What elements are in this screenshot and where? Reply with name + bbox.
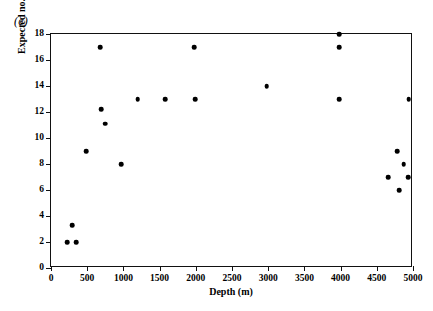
data-point [386,175,391,180]
data-point [395,149,400,154]
x-tick-label: 5000 [404,274,423,284]
data-point [84,149,89,154]
y-tick [46,34,51,35]
y-tick-label: 10 [35,133,45,143]
x-tick [304,266,305,271]
data-point [337,32,342,37]
x-tick [87,266,88,271]
data-point [406,175,411,180]
x-tick-label: 2500 [223,274,242,284]
data-point [65,240,70,245]
x-tick-label: 500 [80,274,94,284]
x-tick [413,266,414,271]
figure-panel: (c) Expected no. of species 024681012141… [0,0,433,311]
x-tick [232,266,233,271]
y-tick [46,164,51,165]
y-tick-label: 16 [35,55,45,65]
y-tick-label: 2 [39,237,44,247]
x-tick [377,266,378,271]
y-tick-label: 6 [39,185,44,195]
y-tick [46,216,51,217]
x-tick [268,266,269,271]
x-tick-label: 3000 [259,274,278,284]
data-point [163,97,168,102]
y-axis-title: Expected no. of species [16,0,27,80]
data-point [74,240,79,245]
y-tick-label: 8 [39,159,44,169]
x-tick-label: 3500 [295,274,314,284]
data-point [136,97,141,102]
data-point [406,97,411,102]
x-tick [196,266,197,271]
x-tick [123,266,124,271]
plot-area: 024681012141618 050010001500200025003000… [50,33,412,267]
y-tick [46,138,51,139]
x-tick [51,266,52,271]
data-point [337,97,342,102]
x-tick-label: 4500 [367,274,386,284]
x-tick-label: 2000 [186,274,205,284]
data-point [264,84,269,89]
y-tick [46,190,51,191]
y-tick-label: 4 [39,211,44,221]
data-point [99,107,104,112]
x-axis-title: Depth (m) [50,286,412,297]
data-point [103,121,108,126]
y-tick [46,60,51,61]
data-point [70,223,75,228]
x-tick [160,266,161,271]
x-tick-label: 0 [49,274,54,284]
x-tick-label: 1500 [150,274,169,284]
data-point [193,97,198,102]
x-tick [341,266,342,271]
x-tick-label: 1000 [114,274,133,284]
y-tick-label: 0 [39,263,44,273]
y-tick-label: 12 [35,107,45,117]
data-point [192,45,197,50]
data-point [401,162,406,167]
data-point [397,188,402,193]
y-tick [46,242,51,243]
y-tick [46,86,51,87]
y-tick [46,112,51,113]
x-tick-label: 4000 [331,274,350,284]
data-point [98,45,103,50]
data-point [337,45,342,50]
y-tick-label: 14 [35,81,45,91]
data-point [119,162,124,167]
y-tick-label: 18 [35,29,45,39]
